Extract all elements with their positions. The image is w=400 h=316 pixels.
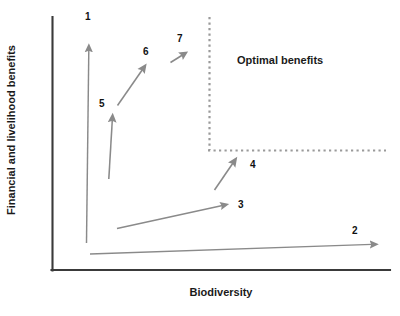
axis-lines <box>52 17 391 271</box>
arrow-6 <box>118 70 143 106</box>
arrow-label-7: 7 <box>177 34 183 44</box>
arrow-5 <box>109 120 113 179</box>
arrow-label-5: 5 <box>99 99 105 109</box>
arrow-label-2: 2 <box>352 226 358 236</box>
arrow-label-3: 3 <box>238 200 244 210</box>
y-axis-label: Financial and livelihood benefits <box>0 0 22 260</box>
arrow-3 <box>117 206 223 229</box>
arrow-label-6: 6 <box>143 47 149 57</box>
arrow-label-1: 1 <box>85 12 91 22</box>
arrow-label-4: 4 <box>250 160 256 170</box>
arrow-2 <box>90 244 372 254</box>
chart-container: Financial and livelihood benefits Biodiv… <box>0 0 400 316</box>
optimal-benefits-boundary <box>208 17 386 151</box>
arrow-group <box>87 50 373 254</box>
arrow-7 <box>171 55 183 63</box>
chart-canvas <box>0 0 400 316</box>
y-axis-label-text: Financial and livelihood benefits <box>5 45 17 215</box>
arrow-1 <box>87 50 89 243</box>
x-axis-label: Biodiversity <box>52 286 390 298</box>
optimal-benefits-label: Optimal benefits <box>237 54 323 66</box>
arrow-4 <box>215 163 234 190</box>
